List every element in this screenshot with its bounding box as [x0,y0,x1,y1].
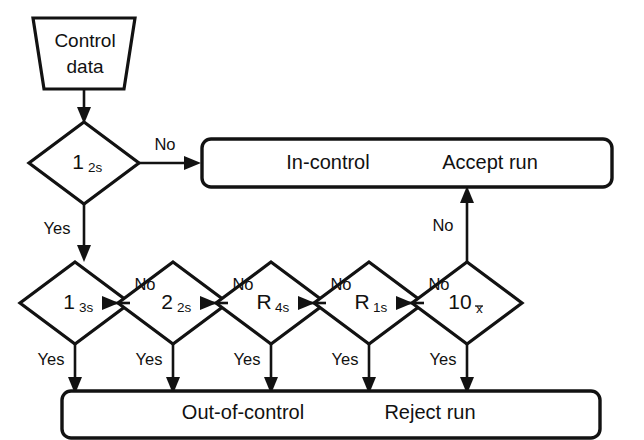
edge-yes-4: Yes [332,344,376,394]
decision-10-xbar-subscript: x [476,301,483,316]
edge-label-final-no: No [432,216,453,234]
arrowhead-icon [184,156,201,170]
accept-box-right-text: Accept run [442,151,538,173]
accept-run-rect [202,139,612,187]
accept-box-left-text: In-control [286,151,369,173]
reject-box-left-text: Out-of-control [182,401,304,423]
edge-label-chain-no-1: No [134,275,155,293]
edge-label-yes-4: Yes [332,350,359,368]
flowchart-canvas: Control data 1 2s No Yes In- [0,0,644,440]
decision-1-2s: 1 2s [29,122,139,204]
edge-label-chain-no-2: No [232,275,253,293]
edge-label-yes-5: Yes [430,350,457,368]
decision-2-2s-label: 2 [161,290,173,313]
decision-1-3s-label: 1 [63,290,75,313]
edge-label-yes-3: Yes [234,350,261,368]
decision-1-2s-diamond [29,122,139,204]
control-data-line2: data [67,56,104,77]
decision-1-2s-subscript: 2s [88,160,103,175]
arrowhead-icon [77,245,91,262]
reject-run-box: Out-of-control Reject run [62,391,600,438]
decision-10-xbar-label: 10 [448,290,471,313]
reject-box-right-text: Reject run [384,401,475,423]
edge-label-chain-no-3: No [330,275,351,293]
accept-run-box: In-control Accept run [202,139,612,187]
flowchart-page: Control data 1 2s No Yes In- [0,0,644,440]
decision-r-4s-label: R [256,290,271,313]
control-data-trapezoid [33,18,135,89]
decision-1-3s-subscript: 3s [79,300,94,315]
decision-r-4s-subscript: 4s [275,300,290,315]
decision-1-2s-label: 1 [72,150,84,173]
edge-yes-1: Yes [38,344,82,394]
control-data-node: Control data [33,18,135,89]
decision-r-1s-label: R [354,290,369,313]
edge-d1-no-to-accept: No [139,135,201,170]
edge-yes-2: Yes [136,344,180,394]
decision-10-xbar: 10 x [412,262,522,344]
edge-final-no-to-accept: No [432,186,474,262]
edge-label-first-yes: Yes [44,219,71,237]
reject-run-rect [62,391,600,438]
edge-yes-3: Yes [234,344,278,394]
decision-2-2s-subscript: 2s [177,300,192,315]
edge-label-yes-1: Yes [38,350,65,368]
edge-label-yes-2: Yes [136,350,163,368]
edge-label-first-no: No [154,135,175,153]
edge-yes-5: Yes [430,344,474,394]
decision-r-1s-subscript: 1s [373,300,388,315]
edge-source-to-d1 [77,89,91,124]
edge-label-chain-no-4: No [428,275,449,293]
edge-d1-yes-to-d2: Yes [44,204,91,262]
control-data-line1: Control [54,30,115,51]
